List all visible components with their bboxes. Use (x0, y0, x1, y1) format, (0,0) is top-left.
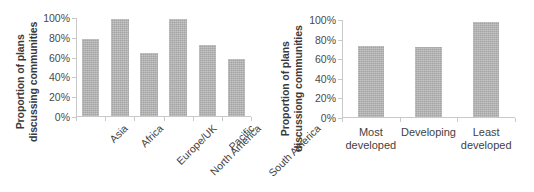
y-tick-label-right-100: 100% (309, 14, 336, 26)
y-tick-left-40 (72, 77, 76, 78)
x-tick-left-3 (164, 117, 165, 121)
plot-area-right: 0%20%40%60%80%100% (342, 20, 515, 118)
y-axis-title-left-line2: discussing communities (27, 22, 40, 142)
y-tick-label-left-20: 20% (49, 91, 70, 103)
bar (111, 19, 129, 116)
y-tick-label-left-0: 0% (55, 111, 70, 123)
two-panel-bar-chart-figure: Proportion of plans discussing communiti… (0, 0, 534, 192)
y-axis-title-left: Proportion of plans discussing communiti… (14, 22, 40, 142)
y-tick-label-left-80: 80% (49, 32, 70, 44)
chart-panel-right: Proportion of plans discussiong communit… (267, 0, 534, 192)
bar (228, 59, 246, 116)
y-tick-label-left-100: 100% (43, 12, 70, 24)
y-tick-label-left-40: 40% (49, 71, 70, 83)
x-axis-label: Most developed (342, 126, 400, 152)
y-tick-label-right-80: 80% (315, 34, 336, 46)
y-axis-title-right-line1: Proportion of plans (279, 25, 292, 152)
y-axis-title-left-line1: Proportion of plans (14, 22, 27, 142)
y-tick-left-100 (72, 18, 76, 19)
bar (169, 19, 187, 116)
y-tick-right-60 (338, 59, 342, 60)
y-tick-label-right-0: 0% (321, 112, 336, 124)
x-axis-label: Asia (107, 122, 130, 145)
y-tick-right-20 (338, 98, 342, 99)
plot-area-left: 0%20%40%60%80%100% (76, 18, 251, 117)
y-axis-line-right (342, 20, 343, 118)
bar (140, 53, 158, 116)
x-tick-right-0 (342, 118, 343, 122)
x-tick-left-0 (76, 117, 77, 121)
y-tick-left-60 (72, 58, 76, 59)
x-axis-label: Least developed (457, 126, 515, 152)
bar (358, 46, 385, 117)
bar (415, 47, 442, 117)
bar (82, 39, 100, 116)
x-axis-line-right (342, 117, 515, 118)
y-axis-title-right-line2: discussiong communities (292, 25, 305, 152)
y-tick-label-right-60: 60% (315, 53, 336, 65)
y-tick-label-right-20: 20% (315, 92, 336, 104)
y-tick-right-100 (338, 20, 342, 21)
x-tick-left-2 (134, 117, 135, 121)
y-tick-left-80 (72, 38, 76, 39)
y-tick-left-20 (72, 97, 76, 98)
y-tick-right-40 (338, 79, 342, 80)
y-axis-line-left (76, 18, 77, 117)
x-axis-label: Developing (400, 126, 458, 139)
x-tick-left-end (251, 117, 252, 121)
x-tick-left-1 (105, 117, 106, 121)
x-tick-right-end (515, 118, 516, 122)
x-axis-label: Africa (138, 122, 165, 149)
chart-panel-left: Proportion of plans discussing communiti… (0, 0, 267, 192)
x-tick-right-1 (400, 118, 401, 122)
x-tick-right-2 (457, 118, 458, 122)
y-tick-right-80 (338, 40, 342, 41)
y-tick-label-left-60: 60% (49, 52, 70, 64)
y-axis-title-right: Proportion of plans discussiong communit… (279, 25, 305, 152)
x-tick-left-4 (193, 117, 194, 121)
bar (199, 45, 217, 116)
y-tick-label-right-40: 40% (315, 73, 336, 85)
bar (473, 22, 500, 117)
x-tick-left-5 (222, 117, 223, 121)
x-axis-label: Europe/UK (174, 122, 219, 167)
